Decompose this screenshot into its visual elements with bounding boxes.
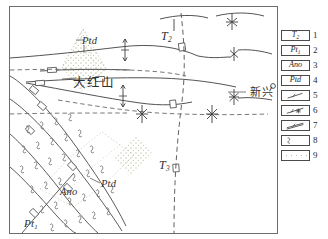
legend-swatch-t2: T2 — [281, 30, 310, 42]
legend-number-5: 5 — [313, 91, 318, 100]
legend-unit-ano[interactable]: Ano 3 — [281, 58, 325, 73]
legend-unit-ptd[interactable]: Ptd 4 — [281, 73, 325, 88]
map-label-ptd-upper: Ptd — [82, 36, 97, 47]
legend-unit-t2[interactable]: T2 1 — [281, 28, 325, 43]
legend-number-1: 1 — [313, 31, 318, 40]
legend-swatch-alteration — [281, 150, 310, 162]
map-legend: T2 1 Pt1 2 Ano 3 Ptd 4 — [281, 28, 325, 178]
legend-swatch-vein — [281, 120, 310, 132]
legend-symbol-schistosity[interactable]: 8 — [281, 133, 325, 148]
map-label-ptd-lower: Ptd — [101, 179, 116, 190]
legend-swatch-ptd: Ptd — [281, 75, 310, 87]
anticline-axis-symbol-1 — [121, 39, 129, 61]
map-label-t3: T3 — [159, 159, 170, 173]
legend-number-8: 8 — [313, 136, 318, 145]
contact-line-group — [10, 13, 272, 105]
map-label-xinxing: 新兴 — [250, 87, 274, 98]
legend-swatch-pt1: Pt1 — [281, 45, 310, 57]
legend-symbol-fault[interactable]: 5 — [281, 88, 325, 103]
legend-number-2: 2 — [313, 46, 318, 55]
legend-number-3: 3 — [313, 61, 318, 70]
legend-swatch-ano: Ano — [281, 60, 310, 72]
legend-swatch-schistosity — [281, 135, 310, 147]
vein-double-stroke-icon — [282, 121, 309, 131]
legend-number-9: 9 — [313, 151, 318, 160]
dip-symbol-group-contacts — [35, 43, 185, 172]
map-label-t2: T2 — [161, 30, 172, 44]
map-label-pt1: Pt1 — [24, 218, 38, 231]
legend-symbol-ore-fault[interactable]: 6 — [281, 103, 325, 118]
legend-number-6: 6 — [313, 106, 318, 115]
legend-number-4: 4 — [313, 76, 318, 85]
stipple-pattern-icon — [282, 151, 309, 161]
geological-map-panel: T2 T3 Pt1 Ptd Ptd Ano 大红山 新兴 — [9, 6, 278, 234]
fold-plunge-symbol-group — [136, 14, 239, 123]
legend-unit-pt1[interactable]: Pt1 2 — [281, 43, 325, 58]
fault-stroke-icon — [282, 91, 309, 101]
legend-number-7: 7 — [313, 121, 318, 130]
figure-root: T2 T3 Pt1 Ptd Ptd Ano 大红山 新兴 T2 1 Pt1 2 … — [0, 0, 328, 239]
map-label-ano: Ano — [60, 187, 78, 198]
legend-symbol-alteration[interactable]: 9 — [281, 148, 325, 163]
map-linework — [10, 7, 277, 233]
anticline-axis-symbol-2 — [119, 85, 127, 107]
schistosity-hook-icon — [282, 136, 309, 146]
legend-symbol-vein[interactable]: 7 — [281, 118, 325, 133]
ore-fault-star-icon — [282, 106, 309, 116]
legend-swatch-fault — [281, 90, 310, 102]
legend-swatch-ore-fault — [281, 105, 310, 117]
map-label-dahongshan: 大红山 — [73, 77, 115, 90]
